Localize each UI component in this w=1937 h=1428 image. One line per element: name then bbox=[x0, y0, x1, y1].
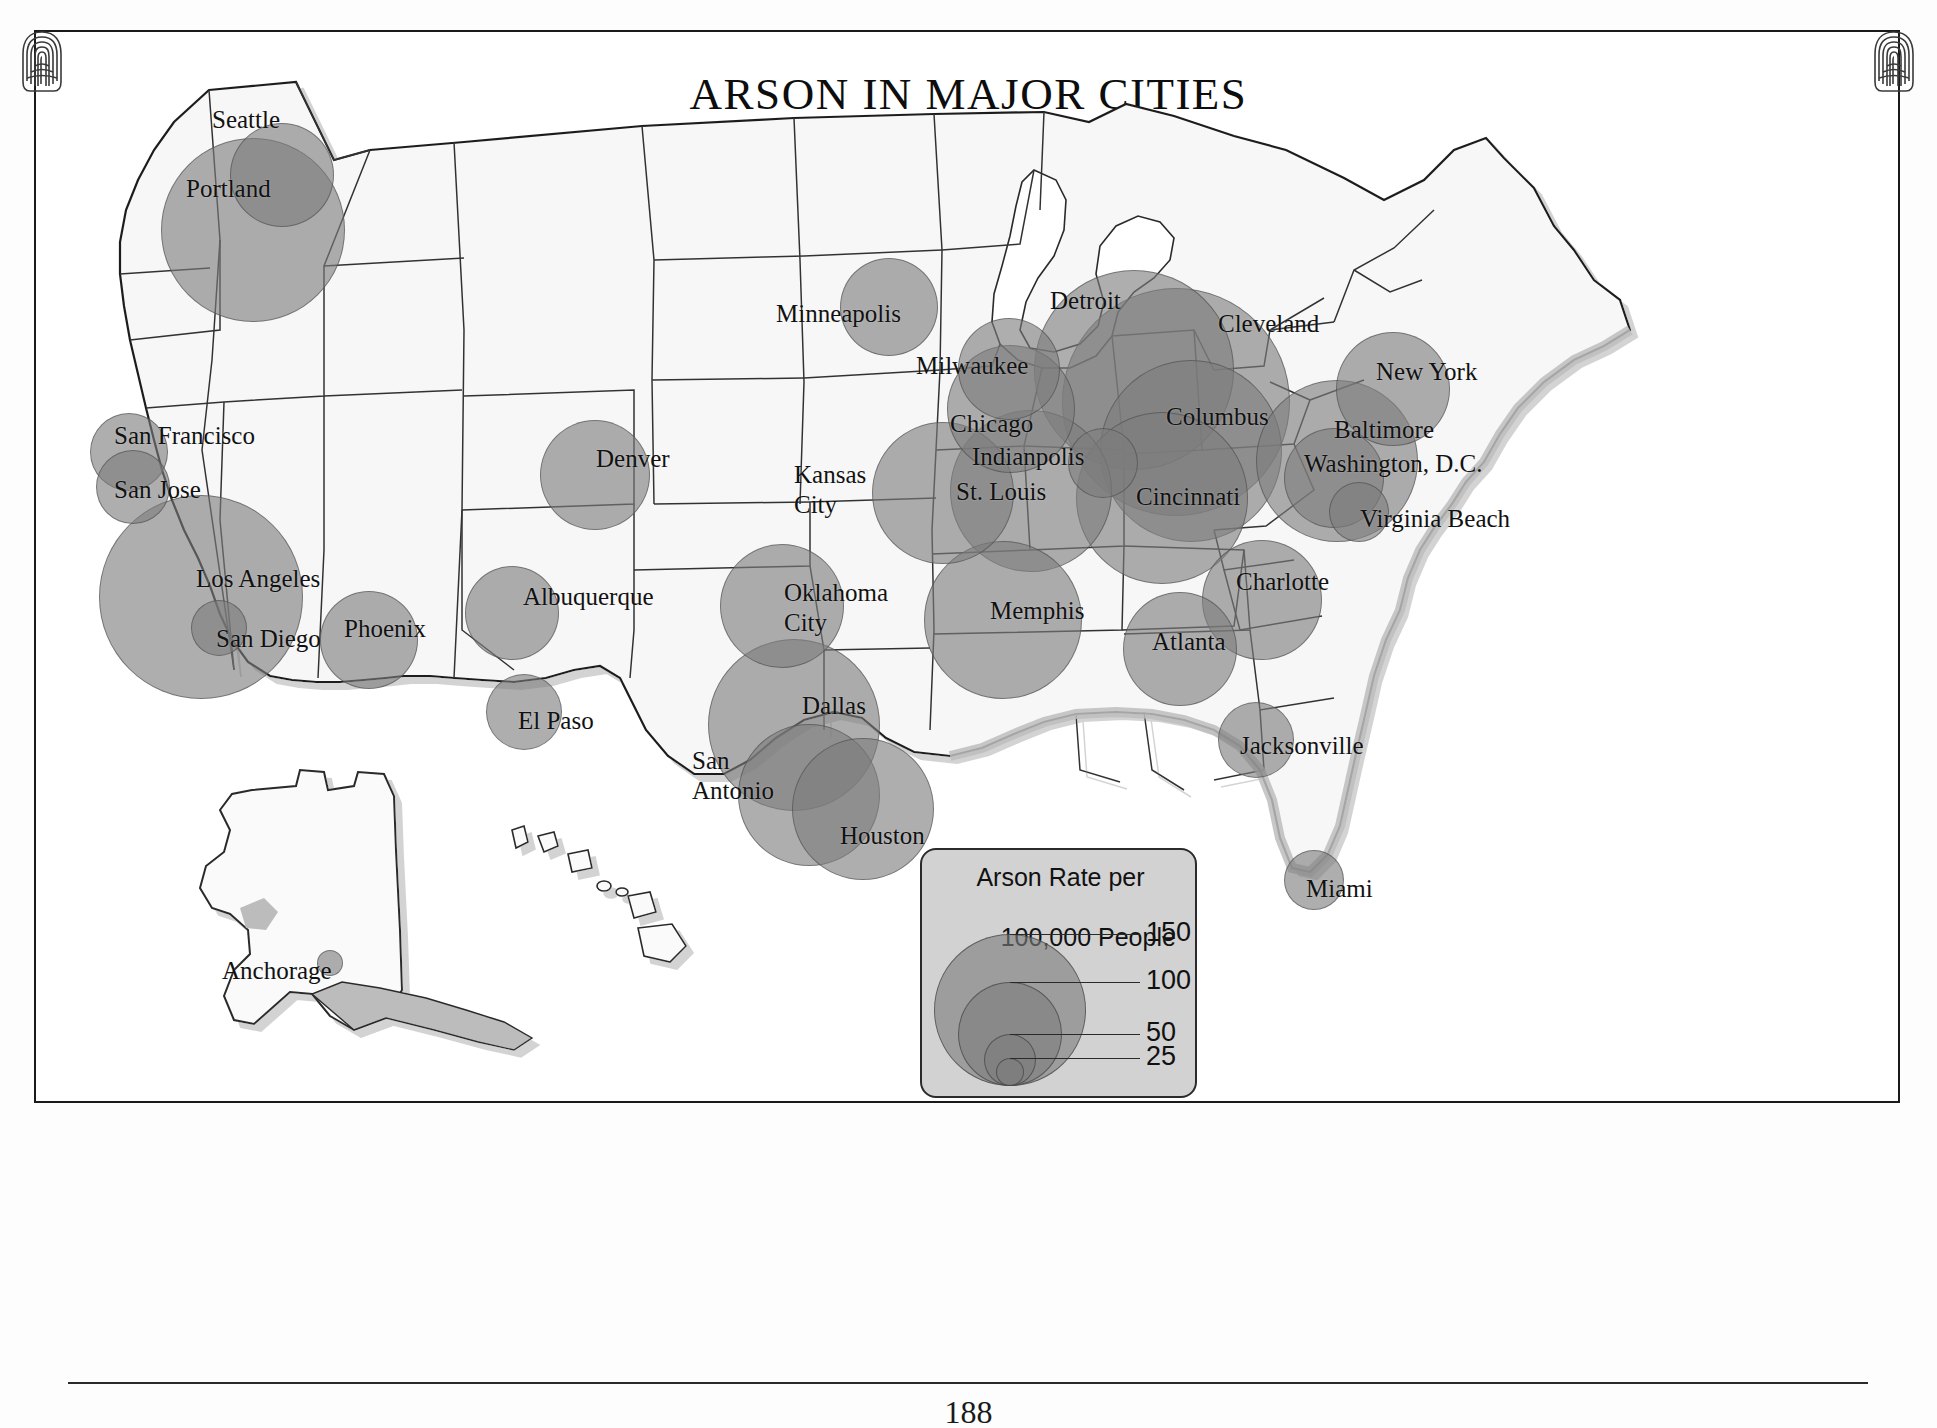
city-label-el-paso: El Paso bbox=[518, 707, 594, 734]
city-label-denver: Denver bbox=[596, 445, 670, 472]
city-label-kansas-city: KansasCity bbox=[794, 460, 866, 520]
city-label-oklahoma-city: OklahomaCity bbox=[784, 578, 888, 638]
city-label-los-angeles: Los Angeles bbox=[196, 565, 320, 592]
legend-title-line1: Arson Rate per bbox=[976, 863, 1144, 891]
city-label-cleveland: Cleveland bbox=[1218, 310, 1319, 337]
city-label-portland: Portland bbox=[186, 175, 271, 202]
city-label-albuquerque: Albuquerque bbox=[523, 583, 654, 610]
city-label-phoenix: Phoenix bbox=[344, 615, 426, 642]
city-label-cincinnati: Cincinnati bbox=[1136, 483, 1240, 510]
legend-leader-25 bbox=[1010, 1058, 1140, 1059]
legend-leader-50 bbox=[1010, 1034, 1140, 1035]
city-label-memphis: Memphis bbox=[990, 597, 1084, 624]
city-label-st-louis: St. Louis bbox=[956, 478, 1046, 505]
city-label-jacksonville: Jacksonville bbox=[1240, 732, 1364, 759]
city-label-charlotte: Charlotte bbox=[1236, 568, 1329, 595]
city-label-indianpolis: Indianpolis bbox=[972, 443, 1085, 470]
city-label-san-francisco: San Francisco bbox=[114, 422, 255, 449]
city-label-columbus: Columbus bbox=[1166, 403, 1269, 430]
city-label-milwaukee: Milwaukee bbox=[916, 352, 1028, 379]
legend-circle-25 bbox=[996, 1058, 1024, 1086]
city-label-chicago: Chicago bbox=[950, 410, 1033, 437]
legend-leader-150 bbox=[1010, 934, 1140, 935]
city-label-miami: Miami bbox=[1306, 875, 1373, 902]
page-number: 188 bbox=[0, 1392, 1937, 1426]
city-label-san-antonio: SanAntonio bbox=[692, 746, 774, 806]
footer-rule bbox=[68, 1382, 1868, 1384]
city-label-washington-d-c: Washington, D.C. bbox=[1304, 450, 1483, 477]
city-label-san-jose: San Jose bbox=[114, 476, 201, 503]
map-canvas: SeattlePortlandSan FranciscoSan JoseLos … bbox=[34, 30, 1900, 1103]
city-label-virginia-beach: Virginia Beach bbox=[1360, 505, 1510, 532]
legend-value-25: 25 bbox=[1146, 1041, 1176, 1072]
city-label-detroit: Detroit bbox=[1050, 287, 1121, 314]
city-label-san-diego: San Diego bbox=[216, 625, 321, 652]
city-label-new-york: New York bbox=[1376, 358, 1477, 385]
city-label-minneapolis: Minneapolis bbox=[776, 300, 901, 327]
city-label-baltimore: Baltimore bbox=[1334, 416, 1434, 443]
legend-value-150: 150 bbox=[1146, 917, 1191, 948]
map-page: ARSON IN MAJOR CITIES bbox=[0, 0, 1937, 1428]
city-label-houston: Houston bbox=[840, 822, 925, 849]
city-label-seattle: Seattle bbox=[212, 106, 280, 133]
city-label-atlanta: Atlanta bbox=[1152, 628, 1226, 655]
city-label-dallas: Dallas bbox=[802, 692, 866, 719]
city-label-anchorage: Anchorage bbox=[222, 957, 332, 984]
legend-value-100: 100 bbox=[1146, 965, 1191, 996]
map-legend: Arson Rate per 100,000 People 1501005025 bbox=[920, 848, 1197, 1098]
legend-leader-100 bbox=[1010, 982, 1140, 983]
